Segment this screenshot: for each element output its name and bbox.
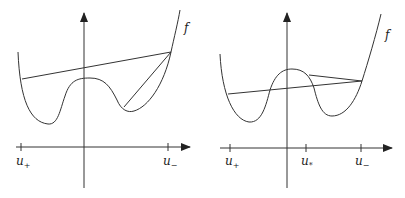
right-chord-line bbox=[309, 75, 362, 81]
right-u-plus-label: u+ bbox=[225, 155, 239, 170]
right-u-minus-text: u bbox=[355, 154, 363, 168]
left-chord-line bbox=[124, 52, 171, 107]
right-f-label: f bbox=[385, 29, 389, 41]
left-u-minus-label: u− bbox=[163, 155, 177, 170]
left-f-label: f bbox=[184, 22, 188, 34]
left-u-minus-sub: − bbox=[171, 161, 178, 170]
right-u-minus-sub: − bbox=[363, 161, 370, 170]
right-secant-line bbox=[228, 81, 362, 94]
right-u-plus-text: u bbox=[225, 154, 233, 168]
left-secant-line bbox=[22, 52, 171, 79]
right-u-star-text: u bbox=[301, 154, 309, 168]
left-u-minus-text: u bbox=[163, 154, 171, 168]
right-u-star-label: u* bbox=[301, 155, 313, 170]
diagram-canvas bbox=[0, 0, 405, 198]
left-u-plus-text: u bbox=[16, 154, 24, 168]
right-u-star-sub: * bbox=[309, 161, 313, 170]
right-curve-f bbox=[220, 14, 381, 122]
left-u-plus-label: u+ bbox=[16, 155, 30, 170]
left-u-plus-sub: + bbox=[24, 161, 31, 170]
right-u-minus-label: u− bbox=[355, 155, 369, 170]
right-u-plus-sub: + bbox=[233, 161, 240, 170]
left-curve-f bbox=[18, 10, 180, 124]
